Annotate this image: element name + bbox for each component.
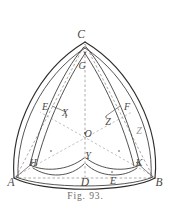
petal-arc-D-K-lower-right bbox=[86, 164, 137, 175]
dot-mid-left bbox=[50, 150, 52, 152]
label-point-Z2: Z bbox=[136, 125, 142, 136]
label-point-F: F bbox=[123, 101, 131, 112]
dot-E2 bbox=[111, 171, 113, 173]
figure-container: C G E F X Z O Y H K A B D E Z Fig. 93. bbox=[0, 0, 171, 217]
label-point-C: C bbox=[77, 28, 85, 40]
label-point-Y: Y bbox=[85, 150, 92, 161]
label-point-E2: E bbox=[109, 175, 116, 186]
label-point-B: B bbox=[155, 176, 162, 188]
dot-mid-right bbox=[118, 150, 120, 152]
petal-arc-Y-K-bottom-right bbox=[86, 158, 140, 169]
figure-caption: Fig. 93. bbox=[0, 191, 171, 201]
label-point-Z: Z bbox=[105, 116, 111, 127]
label-point-D: D bbox=[80, 176, 90, 188]
label-point-G: G bbox=[78, 60, 85, 71]
label-point-K: K bbox=[135, 157, 144, 168]
label-point-O: O bbox=[84, 128, 91, 139]
connector-F-Z bbox=[106, 106, 120, 116]
label-point-X: X bbox=[61, 107, 69, 118]
label-point-E: E bbox=[41, 101, 48, 112]
label-point-A: A bbox=[6, 176, 15, 188]
inner-arc-A-C bbox=[18, 48, 85, 177]
label-point-H: H bbox=[28, 157, 37, 168]
geometric-figure: C G E F X Z O Y H K A B D E Z bbox=[0, 0, 171, 217]
petal-arc-H-D-lower-left bbox=[33, 164, 84, 175]
